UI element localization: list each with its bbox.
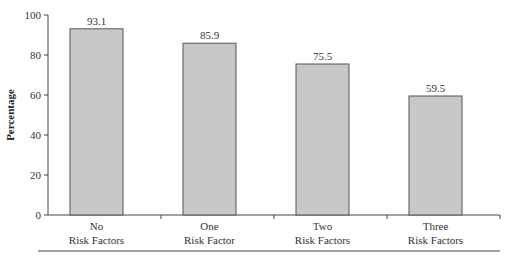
value-label: 85.9: [200, 29, 220, 41]
x-category-label: No: [90, 220, 104, 232]
value-label: 75.5: [313, 50, 333, 62]
x-category-label: Three: [423, 220, 449, 232]
y-tick-label: 100: [25, 9, 42, 21]
y-tick-label: 20: [30, 169, 42, 181]
y-tick-label: 60: [30, 89, 42, 101]
x-category-label: Risk Factors: [295, 234, 350, 246]
value-label: 59.5: [426, 82, 446, 94]
y-tick-label: 80: [30, 49, 42, 61]
plot-area: 02040608010093.1NoRisk Factors85.9OneRis…: [25, 9, 501, 246]
y-tick-label: 40: [30, 129, 42, 141]
bar-chart: Percentage 02040608010093.1NoRisk Factor…: [0, 0, 508, 256]
bar: [296, 64, 349, 215]
x-category-label: Risk Factors: [408, 234, 463, 246]
y-axis-label: Percentage: [4, 89, 16, 141]
bar: [183, 43, 236, 215]
bar: [70, 29, 123, 215]
x-category-label: One: [200, 220, 218, 232]
y-tick-label: 0: [36, 209, 42, 221]
x-category-label: Two: [313, 220, 333, 232]
x-category-label: Risk Factors: [69, 234, 124, 246]
value-label: 93.1: [87, 15, 106, 27]
x-category-label: Risk Factor: [184, 234, 235, 246]
bar: [409, 96, 462, 215]
